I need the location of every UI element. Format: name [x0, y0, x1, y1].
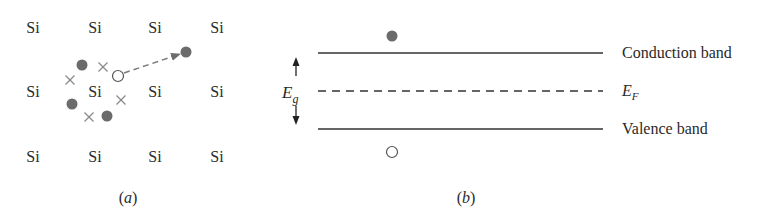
hole-icon [387, 147, 398, 158]
band-diagram-figure: SiSiSiSiSiSiSiSiSiSiSiSi (a) Eg Conducti… [0, 0, 780, 221]
si-atom-label: Si [26, 148, 40, 165]
electron-icon [102, 111, 113, 122]
si-atom-label: Si [88, 19, 102, 36]
si-atom-label: Si [26, 83, 40, 100]
electron-icon [181, 47, 192, 58]
si-atom-label: Si [210, 148, 224, 165]
panel-b-bands: Eg Conduction band EF Valence band (b) [281, 31, 732, 208]
si-atom-label: Si [210, 83, 224, 100]
electron-icon [387, 31, 398, 42]
electron-icon [77, 60, 88, 71]
si-atom-label: Si [148, 19, 162, 36]
electron-icon [67, 99, 78, 110]
broken-bond-x-icon [66, 76, 75, 85]
si-atom-label: Si [210, 19, 224, 36]
si-atom-label: Si [26, 19, 40, 36]
valence-band-label: Valence band [622, 120, 708, 137]
broken-bond-x-icon [85, 113, 94, 122]
caption-a: (a) [119, 189, 138, 207]
si-atom-label: Si [148, 83, 162, 100]
electrons [67, 47, 192, 122]
arrow-up-icon [293, 57, 300, 66]
conduction-band-label: Conduction band [622, 44, 732, 61]
si-atom-label: Si [88, 83, 102, 100]
broken-bond-x-icon [117, 96, 126, 105]
broken-bond-x-icon [99, 63, 108, 72]
si-atom-label: Si [88, 148, 102, 165]
si-atoms: SiSiSiSiSiSiSiSiSiSiSiSi [26, 19, 224, 165]
hole-icon [113, 71, 124, 82]
electron-path-arrow [124, 54, 180, 73]
fermi-level-label: EF [621, 82, 639, 102]
si-atom-label: Si [148, 148, 162, 165]
panel-a-lattice: SiSiSiSiSiSiSiSiSiSiSiSi (a) [26, 19, 224, 207]
caption-b: (b) [457, 189, 476, 207]
band-gap-arrows [293, 57, 300, 125]
arrow-down-icon [293, 116, 300, 125]
band-gap-label: Eg [281, 83, 298, 106]
